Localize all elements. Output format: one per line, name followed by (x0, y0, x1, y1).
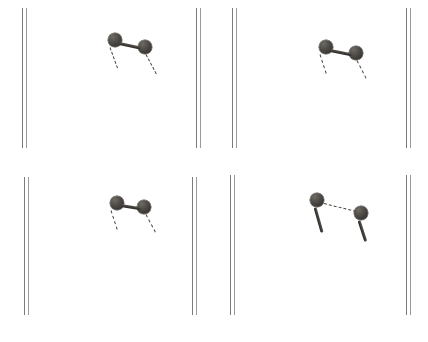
panel-c (0, 171, 214, 342)
panel-a (0, 0, 214, 171)
structure-scene-a (0, 0, 214, 152)
figure-container (0, 0, 428, 342)
oxygen-atom-o2-d (354, 206, 368, 220)
crystal-slab-a (0, 0, 214, 152)
crystal-slab-b (214, 0, 428, 152)
panel-b (214, 0, 428, 171)
panel-d (214, 171, 428, 342)
oxygen-atom-o1-c (110, 196, 124, 210)
structure-scene-b (214, 0, 428, 152)
structure-scene-d (214, 171, 428, 323)
structure-scene-c (0, 171, 214, 323)
crystal-slab-c (0, 171, 214, 323)
oxygen-atom-o1-d (310, 193, 324, 207)
